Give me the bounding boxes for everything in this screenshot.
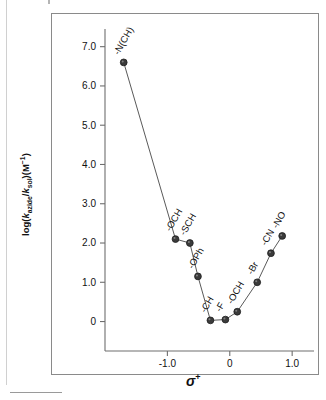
data-point-highlight: [255, 280, 257, 282]
y-axis-title-text: log(kazide/ksol)(M−1): [19, 153, 33, 236]
x-axis-title-text: σ: [186, 373, 195, 389]
figure-frame: 01.02.03.04.05.06.07.0-1.001.0p-N(CH3)2p…: [51, 13, 319, 375]
data-point-highlight: [188, 241, 190, 243]
data-point-label: p-CN: [258, 227, 276, 247]
data-point-highlight: [223, 318, 225, 320]
page-left-rule: [6, 0, 7, 385]
data-point-label: p-N(CH3)2: [111, 25, 136, 57]
data-point-label: p-CH3: [198, 294, 216, 314]
data-point-label: p-OPh: [185, 246, 206, 271]
data-point: [195, 273, 202, 280]
data-point-highlight: [173, 237, 175, 239]
page-bottom-rule: [10, 392, 62, 393]
y-axis-tick-label: 6.0: [82, 80, 96, 91]
y-axis-tick-label: 2.0: [82, 237, 96, 248]
y-axis-tick-label: 5.0: [82, 120, 96, 131]
x-axis-title-superscript: +: [195, 372, 200, 382]
data-point-label-text: m-Br: [244, 260, 260, 276]
y-axis-tick-label: 7.0: [82, 41, 96, 52]
x-axis-tick-label: -1.0: [159, 358, 177, 369]
data-point: [268, 250, 275, 257]
data-point-highlight: [269, 251, 271, 253]
data-point-highlight: [235, 310, 237, 312]
data-point-highlight: [280, 234, 282, 236]
y-axis-tick-label: 4.0: [82, 159, 96, 170]
data-point-label-text: p-CN: [258, 227, 276, 247]
data-point: [222, 316, 229, 323]
data-point: [172, 236, 179, 243]
data-connector-line: [257, 253, 271, 282]
data-point-label: p-NO2: [269, 209, 287, 230]
data-point-label-text: p-NO2: [269, 209, 287, 230]
data-point-label-text: m-OCH3: [224, 279, 246, 306]
data-point-label: m-OCH3: [224, 279, 246, 306]
data-point-label: m-Br: [244, 260, 260, 276]
data-connector-line: [124, 62, 176, 239]
data-point-label-text: p-OPh: [185, 246, 206, 271]
data-point: [186, 240, 193, 247]
y-axis-tick-label: 3.0: [82, 198, 96, 209]
y-axis-tick-label: 0: [90, 316, 96, 327]
data-point-label: p-F: [213, 300, 227, 313]
data-point-label-text: p-F: [213, 300, 227, 313]
y-axis-tick-label: 1.0: [82, 277, 96, 288]
data-point: [234, 308, 241, 315]
figure-page: 01.02.03.04.05.06.07.0-1.001.0p-N(CH3)2p…: [0, 0, 326, 400]
data-point-highlight: [122, 60, 124, 62]
x-axis-title: σ+: [186, 372, 201, 389]
data-point: [207, 317, 214, 324]
data-point-highlight: [208, 318, 210, 320]
data-point-highlight: [196, 274, 198, 276]
x-axis-tick-label: 0: [227, 358, 233, 369]
data-point: [254, 279, 261, 286]
page-top-tick: [48, 0, 50, 4]
data-point: [279, 233, 286, 240]
data-point: [120, 59, 127, 66]
data-point-label-text: p-N(CH3)2: [111, 25, 136, 57]
data-point-label-text: p-CH3: [198, 294, 216, 314]
hammett-plot: 01.02.03.04.05.06.07.0-1.001.0p-N(CH3)2p…: [52, 14, 318, 374]
x-axis-tick-label: 1.0: [285, 358, 299, 369]
